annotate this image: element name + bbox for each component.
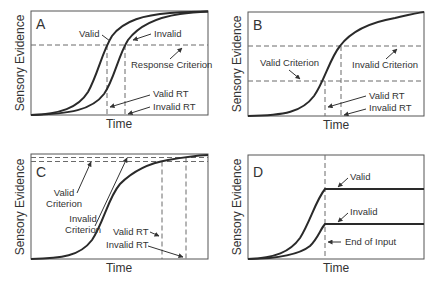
panel-c-valid-criterion-label-1: Valid — [54, 187, 74, 198]
panel-a-invalid-label: Invalid — [154, 28, 181, 39]
panel-b-invalid-rt-label: Invalid RT — [369, 102, 412, 113]
panel-b-valid-criterion-arrow — [289, 70, 300, 79]
panel-b-invalid-rt-arrow — [344, 109, 366, 115]
panel-d-valid-arrow — [338, 178, 348, 187]
panel-b: B Sensory Evidence Time Valid Criterion … — [230, 12, 424, 132]
panel-a-xlabel: Time — [106, 117, 133, 131]
panel-a-valid-rt-label: Valid RT — [153, 88, 189, 99]
panel-d-valid-label: Valid — [350, 171, 370, 182]
panel-a-invalid-arrow — [133, 34, 151, 40]
panel-d-frame — [248, 155, 424, 259]
panel-c-valid-criterion-arrow — [77, 162, 91, 193]
panel-a-criterion-label: Response Criterion — [131, 59, 212, 70]
panel-c: C Sensory Evidence Time Valid Criterion … — [13, 154, 208, 275]
panel-a: A Sensory Evidence Time Valid Invalid Re… — [13, 11, 212, 131]
panel-c-valid-criterion-label-2: Criterion — [46, 198, 82, 209]
panel-b-invalid-criterion-label: Invalid Criterion — [352, 59, 418, 70]
figure: A Sensory Evidence Time Valid Invalid Re… — [0, 0, 439, 286]
panel-c-invalid-criterion-label-1: Invalid — [69, 213, 96, 224]
panel-a-valid-arrow — [102, 35, 110, 41]
panel-a-criterion-arrow — [170, 48, 182, 59]
panel-b-invalid-criterion-arrow — [386, 49, 397, 59]
panel-d-letter: D — [253, 164, 263, 180]
panel-b-ylabel: Sensory Evidence — [230, 15, 244, 112]
panel-a-invalid-rt-label: Invalid RT — [153, 101, 196, 112]
panel-c-valid-rt-arrow — [150, 232, 159, 236]
panel-d: D Sensory Evidence Time Valid Invalid En… — [230, 155, 424, 275]
panel-a-valid-label: Valid — [79, 28, 99, 39]
panel-c-xlabel: Time — [106, 261, 133, 275]
panel-a-valid-rt-arrow — [110, 95, 150, 107]
panel-b-valid-criterion-label: Valid Criterion — [260, 57, 319, 68]
panel-c-invalid-criterion-arrow — [95, 158, 127, 226]
panel-a-invalid-rt-arrow — [128, 107, 150, 114]
panel-b-letter: B — [253, 17, 262, 33]
panel-a-ylabel: Sensory Evidence — [13, 14, 27, 111]
panel-d-xlabel: Time — [323, 261, 350, 275]
panel-c-valid-rt-label: Valid RT — [113, 226, 149, 237]
panel-d-invalid-label: Invalid — [350, 206, 377, 217]
panel-d-invalid-arrow — [338, 213, 348, 222]
panel-c-ylabel: Sensory Evidence — [13, 158, 27, 255]
panel-b-valid-rt-arrow — [328, 96, 366, 107]
panel-a-letter: A — [36, 16, 46, 32]
panel-b-valid-rt-label: Valid RT — [369, 90, 405, 101]
panel-c-letter: C — [36, 164, 46, 180]
panel-d-ylabel: Sensory Evidence — [230, 158, 244, 255]
panel-c-invalid-rt-arrow — [148, 246, 183, 257]
panel-c-invalid-rt-label: Invalid RT — [106, 239, 149, 250]
panel-d-end-of-input-label: End of Input — [345, 236, 397, 247]
panel-b-xlabel: Time — [323, 118, 350, 132]
